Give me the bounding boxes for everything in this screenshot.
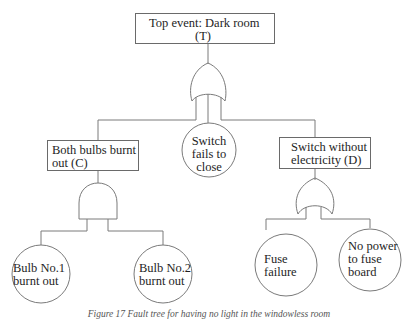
bulb2-label: Bulb No.2 burnt out [139,262,191,288]
or-gate-right [296,178,334,214]
switch-fails-label: Switch fails to close [182,135,236,174]
no-power-label: No power to fuse board [348,240,398,279]
fuse-failure-label: Fuse failure [264,253,297,279]
event-c-line2: out (C) [52,157,88,170]
figure-caption: Figure 17 Fault tree for having no light… [0,309,418,319]
bulb1-label: Bulb No.1 burnt out [13,262,65,288]
and-gate-left [79,183,117,219]
event-box-c: Both bulbs burnt out (C) [47,140,139,171]
event-d-line2: electricity (D) [291,154,361,167]
top-event-line2: (T) [195,30,211,43]
top-event-box: Top event: Dark room (T) [135,13,275,44]
event-box-d: Switch without electricity (D) [279,137,371,169]
